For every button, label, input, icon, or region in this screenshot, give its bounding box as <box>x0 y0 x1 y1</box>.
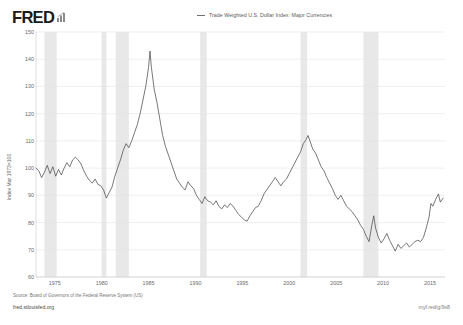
x-tick-label: 1980 <box>96 280 108 286</box>
chart-legend: Trade Weighted U.S. Dollar Index: Major … <box>197 12 332 18</box>
legend-line-marker <box>197 15 205 16</box>
x-tick-label: 1995 <box>236 280 248 286</box>
x-tick-label: 2005 <box>330 280 342 286</box>
plot-area: Index Mar 1973=100 607080901001101201301… <box>0 26 463 278</box>
x-tick-label: 2000 <box>283 280 295 286</box>
recession-band <box>301 32 308 277</box>
recession-band <box>102 32 107 277</box>
fred-logo: FRED <box>12 9 54 26</box>
fred-site-url[interactable]: fred.stlouisfed.org <box>13 304 54 310</box>
x-tick-label: 2010 <box>377 280 389 286</box>
chart-footer: Source: Board of Governors of the Federa… <box>0 291 463 325</box>
x-axis-ticks: 197519801985199019952000200520102015 <box>0 277 463 289</box>
chart-short-url[interactable]: myf.red/g/9x8 <box>419 304 450 310</box>
source-note: Source: Board of Governors of the Federa… <box>13 293 143 298</box>
bar-chart-icon <box>57 12 68 22</box>
x-tick-label: 2015 <box>424 280 436 286</box>
fred-chart-image: FRED Trade Weighted U.S. Dollar Index: M… <box>0 0 463 325</box>
plot-canvas <box>0 26 463 278</box>
x-tick-label: 1985 <box>143 280 155 286</box>
legend-entry-label: Trade Weighted U.S. Dollar Index: Major … <box>209 12 332 18</box>
x-tick-label: 1975 <box>49 280 61 286</box>
recession-band <box>44 32 56 277</box>
x-tick-label: 1990 <box>189 280 201 286</box>
recession-band <box>363 32 378 277</box>
recession-band <box>200 32 207 277</box>
